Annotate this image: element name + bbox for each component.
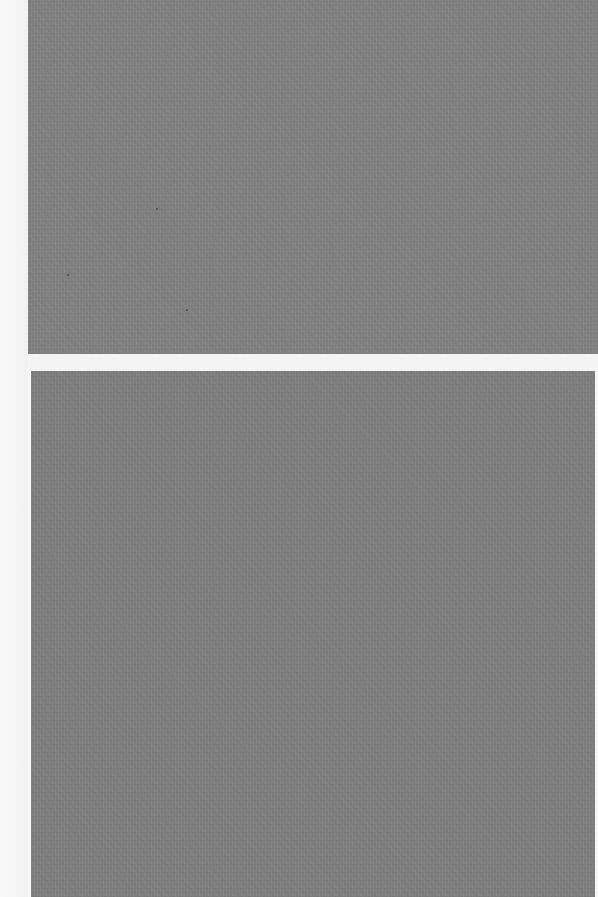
gray-sheet-top <box>28 0 598 354</box>
speck <box>186 309 188 311</box>
white-margin <box>0 0 28 897</box>
speck <box>156 208 158 210</box>
gray-sheet-bottom <box>31 371 595 897</box>
scene <box>0 0 598 897</box>
white-gap <box>28 354 598 371</box>
speck <box>67 274 69 276</box>
